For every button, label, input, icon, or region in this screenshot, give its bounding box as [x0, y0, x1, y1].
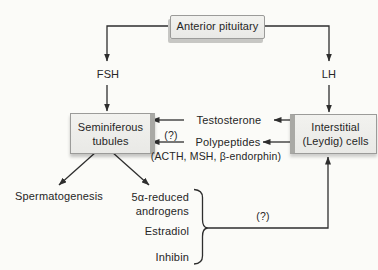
- question-mark-inner-label: (?): [157, 128, 185, 142]
- arrow-pituitary-to-lh: [262, 26, 329, 61]
- interstitial-cells-box: Interstitial (Leydig) cells: [290, 114, 377, 154]
- anterior-pituitary-box: Anterior pituitary: [170, 15, 265, 39]
- endocrine-feedback-diagram: Anterior pituitary Seminiferous tubules …: [0, 0, 378, 270]
- products-brace: [194, 190, 208, 265]
- arrow-seminiferous-to-spermatogenesis: [59, 152, 96, 185]
- inhibin-label: Inhibin: [108, 250, 189, 264]
- seminiferous-tubules-box: Seminiferous tubules: [70, 113, 155, 154]
- question-mark-feedback-label: (?): [247, 209, 279, 223]
- polypeptides-detail-label: (ACTH, MSH, β-endorphin): [136, 149, 296, 163]
- lh-label: LH: [311, 67, 347, 81]
- reduced-androgens-label: 5α-reduced androgens: [108, 190, 189, 218]
- spermatogenesis-label: Spermatogenesis: [8, 189, 110, 203]
- polypeptides-label: Polypeptides: [186, 135, 270, 149]
- arrow-pituitary-to-fsh: [107, 26, 170, 61]
- estradiol-label: Estradiol: [108, 224, 189, 238]
- fsh-label: FSH: [90, 67, 126, 81]
- testosterone-label: Testosterone: [186, 113, 272, 127]
